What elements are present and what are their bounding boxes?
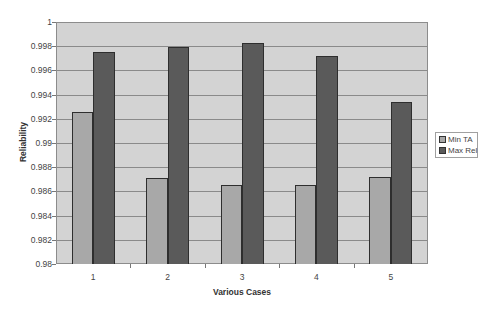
bar-min-ta-case-5 bbox=[369, 177, 391, 264]
y-tick-label: 0.982 bbox=[2, 235, 52, 245]
x-tick-label: 5 bbox=[381, 272, 401, 282]
x-axis-title: Various Cases bbox=[0, 287, 484, 297]
bar-min-ta-case-4 bbox=[295, 185, 317, 264]
y-tick-label: 0.984 bbox=[2, 211, 52, 221]
legend-item-max-rel: Max Rel bbox=[439, 146, 477, 155]
x-tick-mark bbox=[279, 264, 280, 268]
bar-max-rel-case-3 bbox=[242, 43, 264, 264]
x-tick-label: 4 bbox=[306, 272, 326, 282]
y-tick-mark bbox=[52, 70, 56, 71]
y-tick-label: 0.988 bbox=[2, 162, 52, 172]
bar-min-ta-case-1 bbox=[72, 112, 94, 264]
y-axis-title: Reliability bbox=[18, 122, 28, 162]
x-tick-mark bbox=[130, 264, 131, 268]
bar-min-ta-case-2 bbox=[146, 178, 168, 264]
y-tick-mark bbox=[52, 240, 56, 241]
y-tick-label: 0.998 bbox=[2, 41, 52, 51]
legend-label: Min TA bbox=[448, 135, 473, 144]
legend-item-min-ta: Min TA bbox=[439, 135, 473, 144]
x-tick-label: 2 bbox=[158, 272, 178, 282]
y-tick-label: 0.996 bbox=[2, 65, 52, 75]
y-tick-mark bbox=[52, 191, 56, 192]
bar-max-rel-case-4 bbox=[316, 56, 338, 264]
x-tick-mark bbox=[354, 264, 355, 268]
y-tick-mark bbox=[52, 46, 56, 47]
y-tick-label: 0.986 bbox=[2, 186, 52, 196]
y-tick-label: 0.994 bbox=[2, 90, 52, 100]
y-tick-mark bbox=[52, 264, 56, 265]
x-tick-label: 3 bbox=[232, 272, 252, 282]
y-tick-label: 1 bbox=[2, 17, 52, 27]
bar-max-rel-case-2 bbox=[168, 47, 190, 264]
bar-chart: 0.980.9820.9840.9860.9880.990.9920.9940.… bbox=[0, 0, 498, 311]
y-tick-mark bbox=[52, 143, 56, 144]
bar-max-rel-case-5 bbox=[391, 102, 413, 264]
y-tick-mark bbox=[52, 119, 56, 120]
y-tick-mark bbox=[52, 95, 56, 96]
legend: Min TA Max Rel bbox=[435, 132, 478, 158]
y-tick-label: 0.98 bbox=[2, 259, 52, 269]
x-tick-mark bbox=[205, 264, 206, 268]
bar-max-rel-case-1 bbox=[93, 52, 115, 264]
y-tick-mark bbox=[52, 167, 56, 168]
y-tick-mark bbox=[52, 22, 56, 23]
legend-swatch-min-ta bbox=[439, 136, 446, 143]
legend-swatch-max-rel bbox=[439, 147, 446, 154]
y-tick-mark bbox=[52, 216, 56, 217]
bar-min-ta-case-3 bbox=[221, 185, 243, 264]
legend-label: Max Rel bbox=[448, 146, 477, 155]
x-tick-label: 1 bbox=[83, 272, 103, 282]
